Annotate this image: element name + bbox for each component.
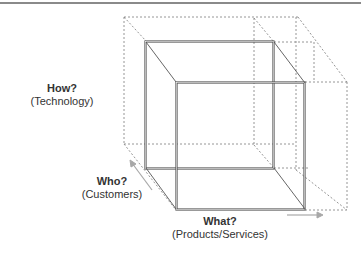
- how-title: How?: [18, 82, 106, 95]
- dashed-extension-cube: [124, 17, 347, 210]
- what-axis-arrow: [287, 212, 323, 218]
- what-axis-label: What? (Products/Services): [168, 215, 272, 241]
- how-axis-label: How? (Technology): [18, 82, 106, 108]
- who-subtitle: (Customers): [74, 188, 150, 201]
- what-title: What?: [168, 215, 272, 228]
- who-title: Who?: [74, 175, 150, 188]
- what-subtitle: (Products/Services): [168, 228, 272, 241]
- who-axis-label: Who? (Customers): [74, 175, 150, 201]
- how-subtitle: (Technology): [18, 95, 106, 108]
- solid-core-cube: [146, 42, 306, 210]
